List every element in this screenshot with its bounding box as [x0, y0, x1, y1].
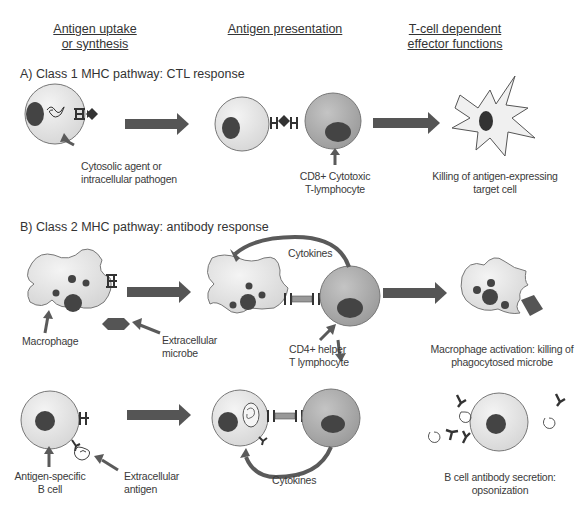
mhc-tcr-complex	[270, 115, 298, 129]
label-cytosolic-agent: Cytosolic agent or intracellular pathoge…	[81, 160, 177, 186]
label-cytokines-top: Cytokines	[288, 247, 332, 260]
antigen-icon	[74, 447, 89, 460]
cd8-t-cell	[305, 93, 361, 149]
label-line: T-lymphocyte	[290, 183, 380, 196]
b-cell-presenting	[212, 390, 268, 446]
mhc-class1-icon	[74, 108, 98, 120]
label-line: phagocytosed microbe	[422, 356, 582, 369]
label-line: B cell	[10, 483, 90, 496]
lysed-target-cell	[452, 76, 535, 156]
label-antigen-specific-b-cell: Antigen-specific B cell	[10, 470, 90, 496]
cd4-t-cell	[320, 266, 380, 326]
mhc2-tcr-complex-b	[267, 410, 303, 422]
label-line: Extracellular	[162, 334, 217, 347]
label-line: Antigen-specific	[10, 470, 90, 483]
mhc2-tcr-complex	[284, 293, 320, 305]
macrophage	[27, 249, 111, 312]
label-line: antigen	[124, 483, 179, 496]
label-killing: Killing of antigen-expressing target cel…	[425, 170, 565, 196]
label-line: CD8+ Cytotoxic	[290, 170, 380, 183]
label-cd8-cytotoxic: CD8+ Cytotoxic T-lymphocyte	[290, 170, 380, 196]
label-line: Macrophage activation: killing of	[422, 343, 582, 356]
label-line: CD4+ helper	[289, 343, 349, 356]
arrow-a1	[125, 113, 189, 135]
label-line: intracellular pathogen	[81, 173, 177, 186]
label-line: opsonization	[435, 484, 565, 497]
microbe-icon	[102, 318, 130, 330]
label-cytokines-bottom: Cytokines	[272, 474, 316, 487]
arrow-a2	[373, 112, 440, 134]
label-extracellular-microbe: Extracellular microbe	[162, 334, 217, 360]
label-macrophage: Macrophage	[22, 335, 78, 348]
label-line: Cytosolic agent or	[81, 160, 177, 173]
label-line: microbe	[162, 347, 217, 360]
b-cell	[21, 391, 79, 449]
cd4-t-cell-b	[302, 389, 360, 447]
arrow-b1	[127, 281, 191, 303]
activated-macrophage	[461, 258, 543, 316]
label-line: Extracellular	[124, 470, 179, 483]
label-extracellular-antigen: Extracellular antigen	[124, 470, 179, 496]
label-line: target cell	[425, 183, 565, 196]
label-cd4-helper: CD4+ helper T lymphocyte	[289, 343, 349, 369]
macrophage-presenting	[207, 255, 288, 313]
arrow-b2	[383, 282, 447, 304]
label-line: B cell antibody secretion:	[435, 471, 565, 484]
label-line: T lymphocyte	[289, 356, 349, 369]
apc-cell	[215, 97, 269, 151]
arrow-b3	[127, 404, 191, 426]
cytokine-arrow-bottom	[246, 447, 331, 477]
label-antibody-secretion: B cell antibody secretion: opsonization	[435, 471, 565, 497]
secreting-b-cell	[470, 393, 528, 451]
label-macrophage-activation: Macrophage activation: killing of phagoc…	[422, 343, 582, 369]
label-line: Killing of antigen-expressing	[425, 170, 565, 183]
